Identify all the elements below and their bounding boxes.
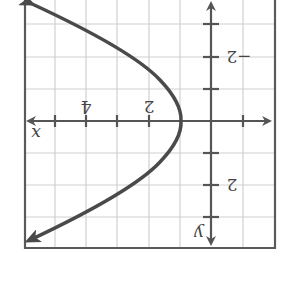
y-tick-label-neg2: −2 [226,47,251,67]
x-axis-label: x [31,124,41,144]
x-tick-label-2: 2 [144,97,155,117]
y-tick-label-2: 2 [227,175,238,195]
y-axis [203,5,219,242]
x-tick-label-4: 4 [81,97,92,117]
y-axis-label: y [194,224,205,244]
parabola-graph: 4 2 −2 2 x y [0,0,297,285]
axis-labels: 4 2 −2 2 x y [31,47,252,244]
